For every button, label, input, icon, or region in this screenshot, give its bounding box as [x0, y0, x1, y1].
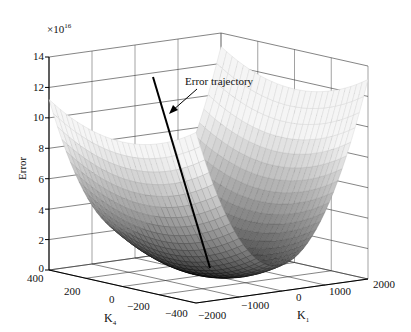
y-tick-200: 200 [64, 286, 81, 297]
z-scale-label: ×1016 [47, 23, 71, 35]
z-tick-10: 10 [14, 112, 44, 123]
x-axis-label: K1 [297, 309, 309, 324]
y-tick-0: 0 [109, 294, 115, 305]
surface-plot [0, 0, 411, 332]
x-tick-1000: 1000 [329, 286, 351, 297]
x-tick-neg1000: −1000 [241, 300, 269, 311]
y-tick-neg400: −400 [165, 308, 188, 319]
x-tick-neg2000: −2000 [198, 310, 226, 321]
y-tick-400: 400 [27, 273, 44, 284]
z-tick-2: 2 [14, 235, 44, 246]
x-tick-0: 0 [296, 292, 302, 303]
error-trajectory-annotation: Error trajectory [185, 76, 253, 87]
z-tick-12: 12 [14, 82, 44, 93]
z-axis-label: Error [17, 157, 28, 180]
z-tick-14: 14 [14, 51, 44, 62]
z-tick-8: 8 [14, 143, 44, 154]
z-tick-4: 4 [14, 205, 44, 216]
y-axis-label: K4 [104, 312, 116, 327]
annotation-arrow-icon [169, 89, 197, 114]
x-tick-2000: 2000 [373, 279, 395, 290]
y-tick-neg200: −200 [127, 301, 150, 312]
